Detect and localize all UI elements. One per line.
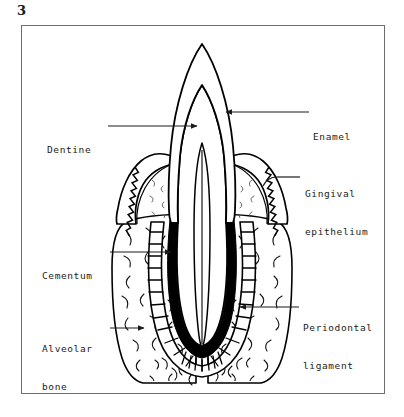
pulp-cavity <box>194 143 210 347</box>
label-gingival-epithelium: Gingival epithelium <box>305 163 368 263</box>
label-alveolar-bone-line-1: Alveolar <box>42 343 93 356</box>
label-gingival-epithelium-line-2: epithelium <box>305 226 368 239</box>
label-periodontal-ligament-line-1: Periodontal <box>303 322 373 335</box>
label-alveolar-bone-line-2: bone <box>42 381 93 394</box>
label-enamel-line-1: Enamel <box>313 131 351 144</box>
label-alveolar-bone: Alveolar bone <box>42 318 93 417</box>
gingiva-texture-right <box>238 180 254 220</box>
label-cementum: Cementum <box>42 245 93 308</box>
label-gingival-epithelium-line-1: Gingival <box>305 188 368 201</box>
label-dentine: Dentine <box>47 119 91 182</box>
label-cementum-line-1: Cementum <box>42 270 93 283</box>
gingiva-texture-left <box>150 180 166 220</box>
figure-root: 3 <box>0 0 404 417</box>
label-periodontal-ligament: Periodontal ligament <box>303 297 373 397</box>
label-dentine-line-1: Dentine <box>47 144 91 157</box>
label-enamel: Enamel <box>313 106 351 169</box>
label-periodontal-ligament-line-2: ligament <box>303 360 373 373</box>
